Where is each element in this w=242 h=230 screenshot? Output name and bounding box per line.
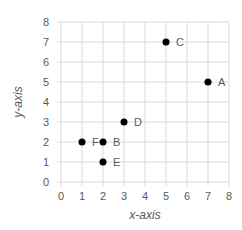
x-tick-label: 2 (100, 190, 106, 202)
x-tick-label: 7 (205, 190, 211, 202)
point-label: B (113, 136, 120, 148)
x-axis-ticks: 012345678 (58, 190, 232, 202)
y-tick-label: 6 (43, 56, 49, 68)
x-tick-label: 3 (121, 190, 127, 202)
data-point-b (100, 139, 107, 146)
x-tick-label: 6 (184, 190, 190, 202)
x-axis-title: x-axis (128, 208, 160, 222)
data-point-a (205, 79, 212, 86)
data-point-d (121, 119, 128, 126)
y-tick-label: 1 (43, 156, 49, 168)
y-axis-ticks: 012345678 (43, 16, 49, 188)
x-tick-label: 4 (142, 190, 148, 202)
x-tick-label: 5 (163, 190, 169, 202)
data-point-e (100, 159, 107, 166)
x-tick-label: 8 (226, 190, 232, 202)
data-point-c (163, 39, 170, 46)
point-label: A (218, 76, 226, 88)
grid-lines (57, 22, 229, 186)
x-tick-label: 1 (79, 190, 85, 202)
y-axis-title: y-axis (11, 86, 25, 118)
x-tick-label: 0 (58, 190, 64, 202)
y-tick-label: 0 (43, 176, 49, 188)
y-tick-label: 8 (43, 16, 49, 28)
data-point-f (79, 139, 86, 146)
y-tick-label: 2 (43, 136, 49, 148)
scatter-chart: 012345678 012345678 ABCDEF x-axis y-axis (0, 0, 242, 230)
y-tick-label: 4 (43, 96, 49, 108)
point-label: F (92, 136, 99, 148)
point-label: D (134, 116, 142, 128)
point-label: E (113, 156, 120, 168)
point-label: C (176, 36, 184, 48)
y-tick-label: 5 (43, 76, 49, 88)
y-tick-label: 7 (43, 36, 49, 48)
y-tick-label: 3 (43, 116, 49, 128)
